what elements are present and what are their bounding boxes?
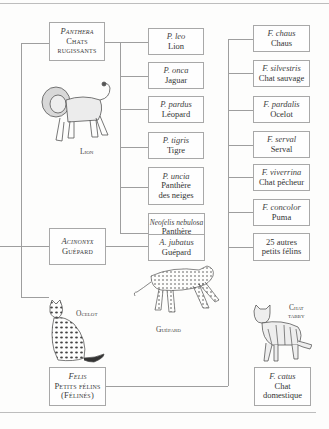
species-common-name-2: des neiges bbox=[158, 191, 193, 200]
species-f-silvestris: F. silvestris Chat sauvage bbox=[253, 60, 310, 87]
tabby-caption-line2: tabby bbox=[288, 312, 305, 320]
bus-to-neofelis bbox=[120, 233, 148, 234]
species-common-name: Tigre bbox=[167, 146, 185, 155]
species-f-pardalis: F. pardalis Ocelot bbox=[253, 96, 310, 123]
species-f-catus: F. catus Chat domestique bbox=[254, 367, 311, 406]
species-common-name: Ocelot bbox=[270, 110, 293, 119]
bus-to-serval bbox=[228, 145, 253, 146]
root-to-acinonyx bbox=[0, 246, 49, 247]
species-common-name: Chat sauvage bbox=[259, 74, 305, 83]
root-to-felis bbox=[21, 297, 49, 298]
cheetah-illustration bbox=[133, 262, 223, 322]
species-common-name-2: petits félins bbox=[262, 247, 301, 256]
genus-acinonyx: Acinonyx Guépard bbox=[49, 228, 106, 265]
species-other-small-cats: 25 autres petits félins bbox=[253, 233, 310, 261]
bus-to-viverrina bbox=[228, 177, 253, 178]
genus-common-name-2: rugissants bbox=[57, 46, 96, 55]
bus-to-others bbox=[228, 247, 253, 248]
panthera-to-bus bbox=[104, 42, 120, 43]
lion-illustration bbox=[38, 80, 118, 150]
genus-felis: Felis Petits félins (Félinés) bbox=[49, 367, 106, 406]
tabby-cat-caption: Chat tabby bbox=[288, 304, 305, 321]
bus-to-pardus bbox=[120, 109, 148, 110]
genus-common-name: Guépard bbox=[62, 247, 93, 256]
panthera-bus bbox=[120, 42, 121, 234]
cheetah-caption: Guépard bbox=[156, 326, 181, 334]
root-bus bbox=[21, 43, 22, 298]
species-common-name: Serval bbox=[271, 145, 293, 154]
species-common-name: Chaus bbox=[271, 39, 292, 48]
bus-to-silvestris bbox=[228, 73, 253, 74]
species-common-name: Guépard bbox=[162, 248, 191, 257]
species-f-viverrina: F. viverrina Chat pêcheur bbox=[253, 164, 310, 191]
species-a-jubatus: A. jubatus Guépard bbox=[148, 234, 205, 261]
bottom-rule bbox=[0, 412, 316, 413]
species-common-name-2: domestique bbox=[263, 391, 302, 400]
bus-to-uncia bbox=[120, 187, 148, 188]
bus-to-tigris bbox=[120, 147, 148, 148]
species-p-uncia: P. uncia Panthère des neiges bbox=[148, 167, 204, 205]
lion-caption: Lion bbox=[80, 148, 93, 156]
bus-to-chaus bbox=[228, 39, 253, 40]
bus-to-onca bbox=[120, 76, 148, 77]
species-f-chaus: F. chaus Chaus bbox=[253, 25, 310, 52]
bus-to-concolor bbox=[228, 212, 253, 213]
species-p-onca: P. onca Jaguar bbox=[148, 62, 204, 89]
species-p-leo: P. leo Lion bbox=[148, 28, 204, 55]
bus-to-pardalis bbox=[228, 110, 253, 111]
species-p-pardus: P. pardus Léopard bbox=[148, 96, 204, 123]
species-common-name: Chat pêcheur bbox=[259, 178, 304, 187]
root-to-panthera bbox=[21, 43, 49, 44]
species-common-name: Puma bbox=[272, 213, 291, 222]
species-common-name: Lion bbox=[168, 42, 184, 51]
genus-common-name-2: (Félinés) bbox=[61, 391, 94, 400]
species-p-tigris: P. tigris Tigre bbox=[148, 132, 204, 159]
genus-panthera: Panthera Chats rugissants bbox=[49, 22, 105, 61]
species-f-concolor: F. concolor Puma bbox=[253, 199, 310, 226]
bus-to-leo bbox=[120, 42, 148, 43]
acinonyx-to-jubatus bbox=[105, 246, 148, 247]
top-rule bbox=[0, 3, 329, 4]
species-common-name: Léopard bbox=[162, 110, 190, 119]
species-f-serval: F. serval Serval bbox=[253, 131, 310, 158]
ocelot-caption: Ocelot bbox=[76, 310, 98, 318]
species-common-name: Jaguar bbox=[165, 76, 187, 85]
felis-to-bus bbox=[105, 386, 228, 387]
